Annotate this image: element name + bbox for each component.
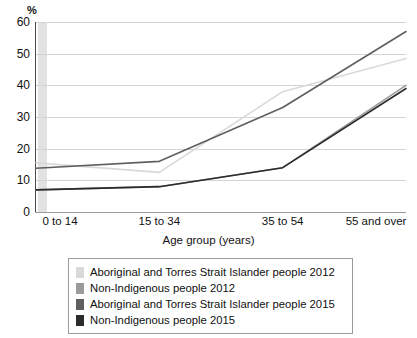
y-axis-tick: 10 (0, 173, 30, 187)
x-axis-line (35, 212, 406, 213)
y-axis-tick: 40 (0, 78, 30, 92)
y-axis-tick: 50 (0, 47, 30, 61)
legend-swatch-icon (76, 283, 84, 294)
chart-legend: Aboriginal and Torres Strait Islander pe… (68, 258, 353, 334)
legend-item[interactable]: Aboriginal and Torres Strait Islander pe… (76, 296, 346, 312)
legend-item-label: Non-Indigenous people 2015 (90, 312, 235, 328)
y-axis-tick: 60 (0, 15, 30, 29)
legend-swatch-icon (76, 299, 84, 310)
x-axis-tick: 15 to 34 (139, 215, 181, 227)
series-line-1 (36, 58, 406, 172)
line-chart: % 6050403020100 0 to 1415 to 3435 to 545… (0, 0, 417, 338)
legend-swatch-icon (76, 315, 84, 326)
series-line-3 (36, 32, 406, 169)
y-axis-tick: 30 (0, 110, 30, 124)
legend-item[interactable]: Non-Indigenous people 2012 (76, 280, 346, 296)
legend-item-label: Aboriginal and Torres Strait Islander pe… (90, 296, 335, 312)
series-line-4 (36, 89, 406, 190)
x-axis-tick: 0 to 14 (42, 215, 77, 227)
series-lines (36, 22, 406, 212)
y-axis-tick: 20 (0, 142, 30, 156)
legend-item[interactable]: Non-Indigenous people 2015 (76, 312, 346, 328)
x-axis-title: Age group (years) (0, 234, 417, 246)
x-axis-tick-labels: 0 to 1415 to 3435 to 5455 and over (36, 215, 406, 231)
legend-swatch-icon (76, 267, 84, 278)
x-axis-tick: 55 and over (346, 215, 407, 227)
legend-item[interactable]: Aboriginal and Torres Strait Islander pe… (76, 264, 346, 280)
plot-area (36, 22, 406, 212)
y-axis-tick: 0 (0, 205, 30, 219)
legend-item-label: Aboriginal and Torres Strait Islander pe… (90, 264, 335, 280)
legend-item-label: Non-Indigenous people 2012 (90, 280, 235, 296)
series-line-2 (36, 85, 406, 190)
x-axis-tick: 35 to 54 (262, 215, 304, 227)
